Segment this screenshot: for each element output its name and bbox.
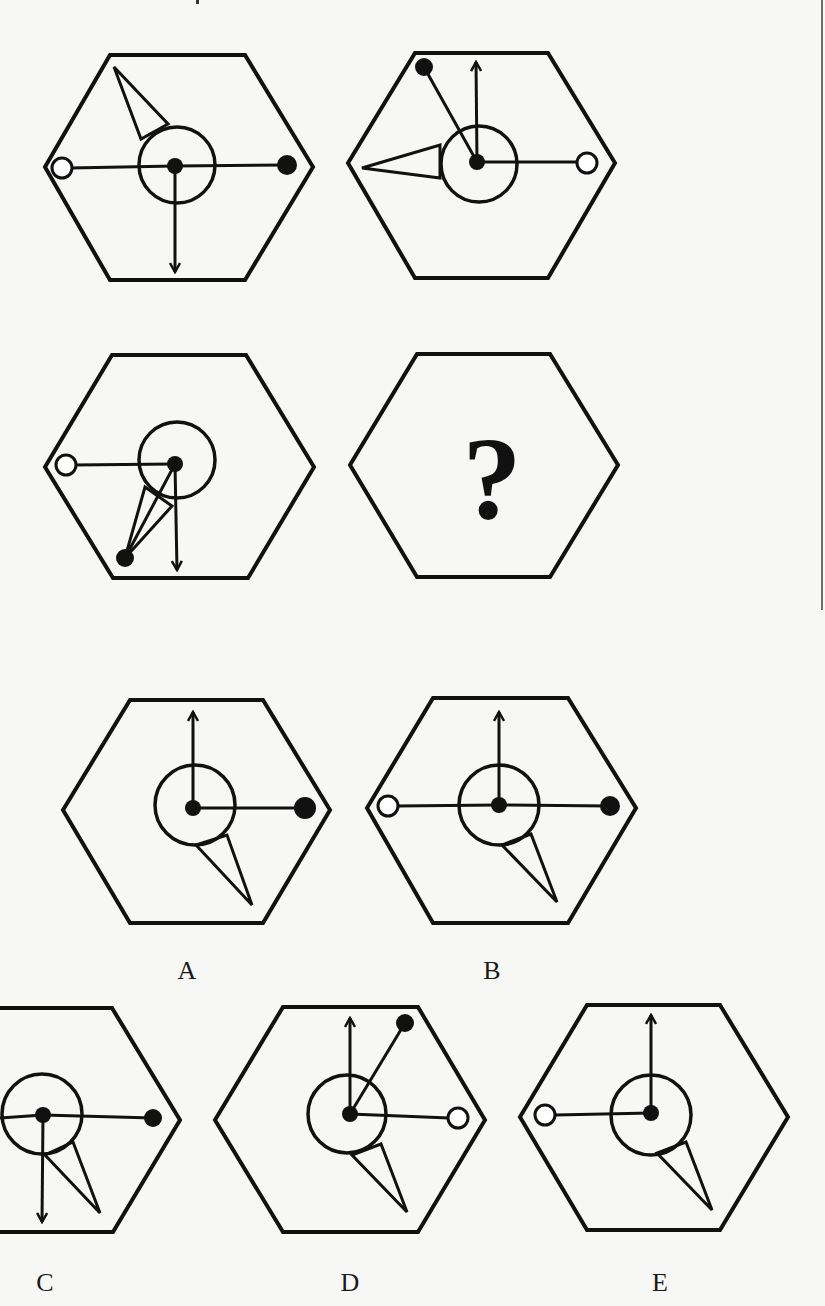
pointer-triangle xyxy=(114,67,168,139)
option-label-c[interactable]: C xyxy=(36,1270,53,1296)
center-dot-icon xyxy=(185,800,201,816)
option-label-b[interactable]: B xyxy=(483,958,500,984)
option-d[interactable] xyxy=(215,1007,485,1232)
sequence-figure-3 xyxy=(45,355,314,578)
spoke-line xyxy=(350,1114,449,1118)
spoke-line xyxy=(73,464,175,465)
option-label-d[interactable]: D xyxy=(341,1270,360,1296)
option-label-a[interactable]: A xyxy=(178,958,197,984)
pointer-triangle xyxy=(352,1144,407,1212)
puzzle-canvas xyxy=(0,0,825,1306)
option-c[interactable] xyxy=(0,1008,180,1232)
open-circle-icon xyxy=(52,158,72,178)
center-dot-icon xyxy=(342,1106,358,1122)
filled-dot-icon xyxy=(396,1014,414,1032)
pointer-triangle xyxy=(362,145,440,178)
center-dot-icon xyxy=(491,797,507,813)
sequence-figure-2 xyxy=(348,53,615,278)
spoke-line xyxy=(555,1113,651,1115)
filled-dot-icon xyxy=(116,549,134,567)
sequence-figures xyxy=(45,53,618,578)
filled-dot-icon xyxy=(600,796,620,816)
filled-dot-icon xyxy=(277,155,297,175)
spoke-line xyxy=(43,1115,153,1118)
filled-dot-icon xyxy=(415,58,433,76)
center-dot-icon xyxy=(469,154,485,170)
spoke-line xyxy=(499,805,610,806)
sequence-figure-1 xyxy=(45,55,313,280)
option-b[interactable] xyxy=(367,698,636,923)
arrow-down-icon xyxy=(175,464,177,570)
center-dot-icon xyxy=(167,158,183,174)
arrow-down-icon xyxy=(42,1115,43,1222)
option-a[interactable] xyxy=(63,700,330,923)
option-e[interactable] xyxy=(520,1005,788,1230)
spoke-line xyxy=(175,165,287,166)
spoke-line xyxy=(350,1023,405,1114)
question-mark: ? xyxy=(463,420,522,538)
open-circle-icon xyxy=(448,1108,468,1128)
spoke-line xyxy=(70,166,175,168)
arrow-up-icon xyxy=(476,62,477,162)
spoke-line xyxy=(397,805,499,806)
center-dot-icon xyxy=(643,1105,659,1121)
answer-options xyxy=(0,698,788,1232)
open-circle-icon xyxy=(535,1105,555,1125)
open-circle-icon xyxy=(577,153,597,173)
filled-dot-icon xyxy=(144,1109,162,1127)
filled-dot-icon xyxy=(294,797,316,819)
option-label-e[interactable]: E xyxy=(652,1270,668,1296)
open-circle-icon xyxy=(56,455,76,475)
open-circle-icon xyxy=(378,796,398,816)
center-dot-icon xyxy=(35,1107,51,1123)
center-dot-icon xyxy=(167,456,183,472)
